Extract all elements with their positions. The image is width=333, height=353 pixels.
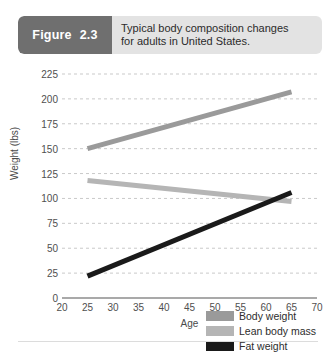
y-axis-tick-labels: 0255075100125150175200225 bbox=[0, 74, 58, 298]
figure-caption-line-1: Typical body composition changes bbox=[121, 22, 314, 35]
figure-caption-line-2: for adults in United States. bbox=[121, 35, 314, 48]
x-tick-label: 30 bbox=[101, 302, 125, 313]
y-tick-label: 150 bbox=[2, 143, 58, 154]
y-tick-label: 50 bbox=[2, 243, 58, 254]
plot-area bbox=[62, 74, 317, 298]
y-tick-label: 125 bbox=[2, 168, 58, 179]
x-tick-label: 40 bbox=[152, 302, 176, 313]
legend-label: Body weight bbox=[239, 310, 296, 322]
series-line bbox=[88, 92, 292, 149]
x-tick-label: 45 bbox=[178, 302, 202, 313]
bottom-divider bbox=[18, 341, 318, 342]
y-tick-label: 75 bbox=[2, 218, 58, 229]
legend-item: Lean body mass bbox=[206, 324, 316, 338]
legend-swatch bbox=[206, 341, 234, 351]
y-tick-label: 25 bbox=[2, 268, 58, 279]
series-line bbox=[88, 192, 292, 276]
y-tick-label: 225 bbox=[2, 69, 58, 80]
y-tick-label: 100 bbox=[2, 193, 58, 204]
x-tick-label: 35 bbox=[127, 302, 151, 313]
gridlines bbox=[62, 74, 317, 273]
figure-badge-label: Figure bbox=[32, 28, 71, 42]
legend-label: Lean body mass bbox=[239, 325, 316, 337]
y-tick-label: 175 bbox=[2, 118, 58, 129]
chart-legend: Body weightLean body massFat weight bbox=[206, 309, 316, 353]
x-tick-label: 25 bbox=[76, 302, 100, 313]
figure-badge: Figure 2.3 bbox=[18, 16, 112, 54]
chart: Weight (lbs) 0255075100125150175200225 2… bbox=[0, 60, 333, 325]
figure-header: Figure 2.3 Typical body composition chan… bbox=[18, 16, 322, 54]
legend-swatch bbox=[206, 311, 234, 321]
plot-svg bbox=[62, 74, 317, 298]
legend-swatch bbox=[206, 326, 234, 336]
x-tick-label: 20 bbox=[50, 302, 74, 313]
legend-item: Body weight bbox=[206, 309, 316, 323]
figure-badge-number: 2.3 bbox=[80, 28, 98, 42]
figure-caption: Typical body composition changes for adu… bbox=[112, 16, 322, 54]
y-tick-label: 200 bbox=[2, 93, 58, 104]
